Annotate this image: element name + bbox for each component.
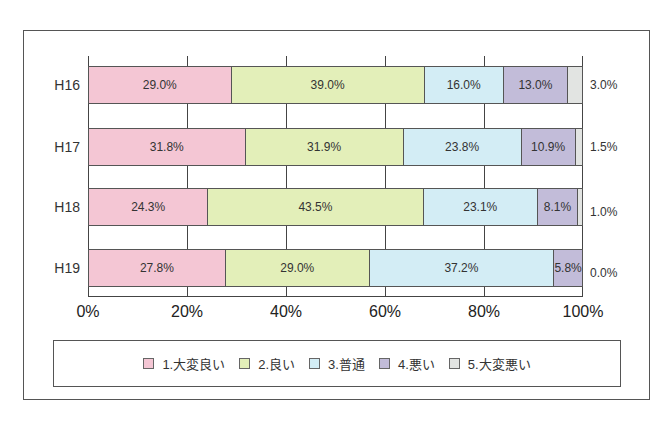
bar-segment: [578, 188, 583, 226]
data-label: 5.8%: [554, 261, 581, 275]
legend: 1.大変良い2.良い3.普通4.悪い5.大変悪い: [53, 340, 621, 387]
legend-label: 4.悪い: [398, 354, 435, 373]
x-tick-label: 0%: [76, 303, 99, 321]
legend-swatch-icon: [449, 358, 460, 369]
legend-label: 3.普通: [328, 354, 365, 373]
bar-segment: 23.8%: [404, 128, 522, 166]
x-tick-label: 40%: [270, 303, 302, 321]
bar-segment: 29.0%: [88, 66, 232, 104]
legend-swatch-icon: [143, 358, 154, 369]
x-tick-label: 80%: [468, 303, 500, 321]
data-label: 29.0%: [143, 78, 177, 92]
x-tick-label: 100%: [563, 303, 604, 321]
plot-area: 29.0%39.0%16.0%13.0%31.8%31.9%23.8%10.9%…: [88, 56, 583, 297]
legend-item: 4.悪い: [379, 354, 435, 373]
bar-segment: 24.3%: [88, 188, 208, 226]
bar-row: 27.8%29.0%37.2%5.8%: [88, 249, 583, 287]
legend-label: 1.大変良い: [162, 354, 225, 373]
end-data-label: 0.0%: [590, 266, 617, 280]
legend-item: 1.大変良い: [143, 354, 225, 373]
end-data-label: 3.0%: [590, 78, 617, 92]
bar-segment: 23.1%: [424, 188, 538, 226]
data-label: 23.8%: [445, 140, 479, 154]
data-label: 43.5%: [298, 200, 332, 214]
category-label: H18: [40, 199, 80, 215]
data-label: 16.0%: [447, 78, 481, 92]
data-label: 29.0%: [280, 261, 314, 275]
bar-segment: 27.8%: [88, 249, 226, 287]
bar-segment: 31.8%: [88, 128, 246, 166]
bar-row: 24.3%43.5%23.1%8.1%: [88, 188, 583, 226]
legend-swatch-icon: [379, 358, 390, 369]
bar-segment: 29.0%: [226, 249, 370, 287]
bar-segment: 31.9%: [246, 128, 404, 166]
bar-segment: 37.2%: [370, 249, 555, 287]
x-tick-label: 20%: [171, 303, 203, 321]
data-label: 37.2%: [444, 261, 478, 275]
x-axis-line: [88, 296, 583, 297]
legend-item: 2.良い: [239, 354, 295, 373]
legend-item: 3.普通: [309, 354, 365, 373]
bar-row: 29.0%39.0%16.0%13.0%: [88, 66, 583, 104]
legend-label: 2.良い: [258, 354, 295, 373]
x-tick-label: 60%: [369, 303, 401, 321]
category-label: H19: [40, 260, 80, 276]
bar-segment: 5.8%: [554, 249, 583, 287]
data-label: 8.1%: [544, 200, 571, 214]
bar-segment: 13.0%: [504, 66, 568, 104]
data-label: 31.8%: [150, 140, 184, 154]
bar-segment: 39.0%: [232, 66, 425, 104]
bar-segment: 16.0%: [425, 66, 504, 104]
bar-segment: [576, 128, 583, 166]
data-label: 23.1%: [463, 200, 497, 214]
category-label: H16: [40, 77, 80, 93]
data-label: 27.8%: [140, 261, 174, 275]
bar-segment: 10.9%: [522, 128, 576, 166]
data-label: 39.0%: [311, 78, 345, 92]
legend-label: 5.大変悪い: [468, 354, 531, 373]
legend-item: 5.大変悪い: [449, 354, 531, 373]
bar-row: 31.8%31.9%23.8%10.9%: [88, 128, 583, 166]
legend-swatch-icon: [239, 358, 250, 369]
category-label: H17: [40, 139, 80, 155]
bar-segment: [568, 66, 583, 104]
data-label: 24.3%: [131, 200, 165, 214]
legend-swatch-icon: [309, 358, 320, 369]
data-label: 13.0%: [518, 78, 552, 92]
bar-segment: 8.1%: [538, 188, 578, 226]
data-label: 31.9%: [307, 140, 341, 154]
end-data-label: 1.0%: [590, 205, 617, 219]
data-label: 10.9%: [531, 140, 565, 154]
bar-segment: 43.5%: [208, 188, 423, 226]
end-data-label: 1.5%: [590, 140, 617, 154]
